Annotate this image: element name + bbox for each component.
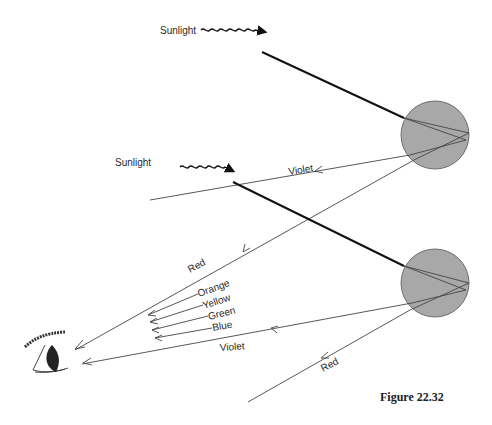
eye-icon	[25, 332, 68, 372]
arrowhead-blue	[155, 335, 162, 341]
lower-raindrop	[401, 249, 469, 317]
label-violet-lower: Violet	[219, 340, 245, 353]
arrowhead-violet-upper	[315, 166, 323, 173]
ray-red-lower	[248, 310, 410, 402]
arrowhead-green	[152, 327, 159, 333]
label-red-upper: Red	[186, 256, 207, 274]
arrowhead-red-eye	[75, 340, 85, 349]
ray-blue	[155, 328, 212, 338]
arrowhead-red-upper	[243, 244, 250, 252]
label-blue: Blue	[211, 319, 233, 333]
sunlight-wave-bottom-icon	[180, 166, 233, 171]
label-violet-upper: Violet	[288, 162, 314, 177]
sunbeam-top	[262, 52, 404, 118]
label-sunlight-bottom: Sunlight	[115, 157, 151, 168]
sunlight-wave-top-icon	[201, 29, 265, 32]
sunbeam-bottom	[233, 182, 404, 266]
ray-violet-upper	[150, 155, 410, 200]
arrowhead-violet-lower	[271, 326, 278, 333]
upper-raindrop	[401, 101, 469, 169]
diagram-canvas: Sunlight Sunlight Violet Red Orange Yell…	[0, 0, 492, 425]
label-sunlight-top: Sunlight	[160, 25, 196, 36]
rainbow-formation-diagram: Sunlight Sunlight Violet Red Orange Yell…	[0, 0, 492, 425]
ray-green	[152, 316, 208, 330]
ray-violet-lower	[82, 303, 412, 364]
figure-caption: Figure 22.32	[380, 390, 444, 405]
